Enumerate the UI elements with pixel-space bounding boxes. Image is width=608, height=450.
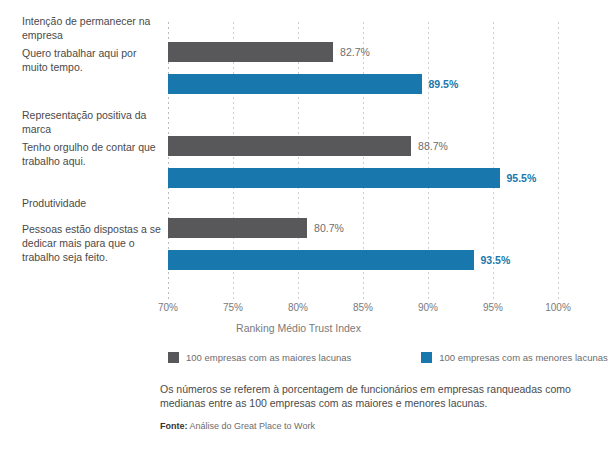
legend-swatch-menores-icon — [421, 352, 432, 363]
xtick-85: 85% — [353, 302, 373, 313]
gridline-100 — [558, 22, 559, 300]
bar-maiores-group-1: 88.7% — [168, 136, 411, 156]
bar-menores-group-1: 95.5% — [168, 168, 500, 188]
legend-item-maiores: 100 empresas com as maiores lacunas — [168, 352, 351, 363]
category-label-group-1: Representação positiva da marca — [22, 108, 164, 136]
xtick-75: 75% — [223, 302, 243, 313]
source-prefix: Fonte: — [160, 421, 188, 431]
bar-menores-group-2: 93.5% — [168, 250, 474, 270]
xtick-70: 70% — [158, 302, 178, 313]
bar-value-maiores-group-1: 88.7% — [418, 141, 448, 152]
statement-label-group-1: Tenho orgulho de contar que trabalho aqu… — [22, 140, 164, 168]
x-axis-title: Ranking Médio Trust Index — [0, 322, 597, 334]
legend-swatch-maiores-icon — [168, 352, 179, 363]
bar-maiores-group-0: 82.7% — [168, 42, 333, 62]
bar-maiores-group-2: 80.7% — [168, 218, 307, 238]
chart-source: Fonte: Análise do Great Place to Work — [160, 421, 315, 431]
xtick-95: 95% — [483, 302, 503, 313]
category-label-group-0: Intenção de permanecer na empresa — [22, 14, 164, 42]
chart-footnote: Os números se referem à porcentagem de f… — [160, 382, 580, 410]
bar-menores-group-0: 89.5% — [168, 74, 422, 94]
bar-value-maiores-group-2: 80.7% — [314, 223, 344, 234]
statement-label-group-0: Quero trabalhar aqui por muito tempo. — [22, 46, 164, 74]
plot-area: 82.7% 89.5% 88.7% 95.5% 80.7% 93.5% — [168, 22, 558, 300]
bar-value-menores-group-1: 95.5% — [507, 173, 537, 184]
category-label-group-2: Produtividade — [22, 196, 164, 210]
bar-value-menores-group-2: 93.5% — [481, 255, 511, 266]
bar-value-maiores-group-0: 82.7% — [340, 47, 370, 58]
xtick-100: 100% — [545, 302, 571, 313]
legend-label-maiores: 100 empresas com as maiores lacunas — [186, 352, 351, 363]
legend-label-menores: 100 empresas com as menores lacunas — [439, 352, 607, 363]
xtick-80: 80% — [288, 302, 308, 313]
legend-item-menores: 100 empresas com as menores lacunas — [421, 352, 607, 363]
chart-legend: 100 empresas com as maiores lacunas 100 … — [168, 352, 586, 363]
xtick-90: 90% — [418, 302, 438, 313]
statement-label-group-2: Pessoas estão dispostas a se dedicar mai… — [22, 222, 164, 265]
source-text: Análise do Great Place to Work — [190, 421, 315, 431]
bar-value-menores-group-0: 89.5% — [429, 79, 459, 90]
